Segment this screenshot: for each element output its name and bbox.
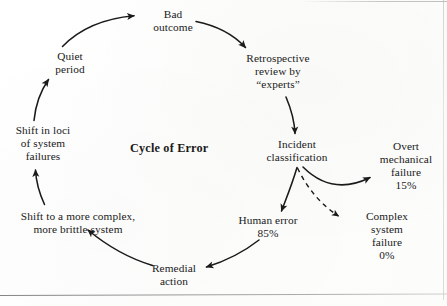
- node-incident-classification: Incident classification: [250, 138, 344, 164]
- edge-retrospective-to-incident: [286, 97, 295, 134]
- edge-incident-to-overt-mechanical: [303, 167, 370, 185]
- node-bad-outcome: Bad outcome: [143, 8, 203, 34]
- node-remedial-action: Remedial action: [142, 262, 206, 288]
- node-human-error: Human error 85%: [228, 214, 308, 240]
- diagram-page: Bad outcome Retrospective review by “exp…: [0, 0, 447, 306]
- edge-incident-to-human-error: [282, 168, 298, 212]
- page-rule-bottom: [0, 294, 447, 297]
- node-complex-system-failure: Complex system failure 0%: [350, 210, 424, 262]
- diagram-title: Cycle of Error: [130, 141, 208, 156]
- node-quiet-period: Quiet period: [40, 50, 100, 76]
- edge-bad-outcome-to-retrospective: [196, 22, 246, 48]
- edge-human-error-to-remedial: [207, 240, 260, 267]
- edge-shift-loci-to-quiet: [34, 80, 49, 121]
- node-retrospective-review: Retrospective review by “experts”: [228, 52, 328, 91]
- node-shift-in-loci: Shift in loci of system failures: [7, 124, 79, 163]
- edge-quiet-to-bad-outcome: [63, 16, 135, 47]
- edge-incident-to-complex-system: [298, 168, 339, 216]
- node-shift-to-more-complex-system: Shift to a more complex, more brittle sy…: [10, 210, 146, 236]
- page-rule-top: [300, 1, 447, 2]
- node-overt-mechanical-failure: Overt mechanical failure 15%: [367, 140, 445, 192]
- edge-shift-complex-to-shift-loci: [36, 170, 45, 205]
